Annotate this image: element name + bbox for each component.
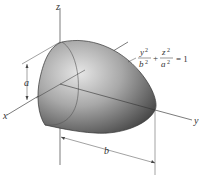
y-axis [155, 110, 192, 120]
equation: y 2 b 2 + z 2 a 2 = 1 [138, 47, 188, 69]
z-axis-label: z [55, 1, 60, 12]
diagram-svg: z x y a b y 2 b 2 + z 2 a 2 = 1 [0, 0, 205, 181]
svg-text:y: y [139, 47, 144, 57]
svg-text:= 1: = 1 [176, 54, 188, 64]
x-axis-label: x [2, 110, 8, 121]
svg-text:a: a [161, 59, 166, 69]
svg-text:2: 2 [145, 47, 148, 53]
b-arrow-left [61, 137, 65, 140]
a-arrow-bottom [26, 96, 29, 100]
b-dimension-label: b [104, 145, 109, 156]
svg-text:2: 2 [167, 59, 170, 65]
svg-text:2: 2 [167, 47, 170, 53]
svg-text:b: b [139, 59, 144, 69]
svg-text:2: 2 [145, 59, 148, 65]
equation-leader [128, 58, 136, 62]
b-arrow-right [151, 160, 155, 163]
svg-text:+: + [153, 53, 158, 63]
y-axis-label: y [193, 115, 199, 126]
svg-text:z: z [161, 47, 166, 57]
a-arrow-top [26, 64, 29, 68]
paraboloid-diagram: z x y a b y 2 b 2 + z 2 a 2 = 1 [0, 0, 205, 181]
a-dimension-label: a [24, 77, 29, 88]
